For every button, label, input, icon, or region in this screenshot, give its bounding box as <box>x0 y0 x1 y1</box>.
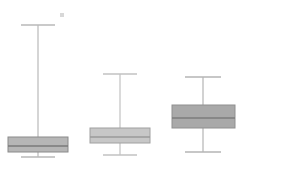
boxplot-canvas <box>0 0 292 169</box>
boxplot-group <box>8 14 68 158</box>
box-rect[interactable] <box>90 128 150 143</box>
boxplot-group <box>172 77 235 152</box>
outlier-marker[interactable] <box>61 14 64 17</box>
boxplot-group <box>90 74 150 155</box>
box-rect[interactable] <box>8 137 68 152</box>
box-rect[interactable] <box>172 105 235 128</box>
boxplot-chart <box>0 0 292 169</box>
